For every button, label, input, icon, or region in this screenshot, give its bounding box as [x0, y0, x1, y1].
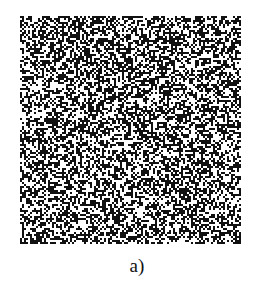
- figure: a): [0, 0, 274, 289]
- random-binary-pattern-image: [20, 16, 241, 244]
- figure-caption: a): [0, 255, 274, 277]
